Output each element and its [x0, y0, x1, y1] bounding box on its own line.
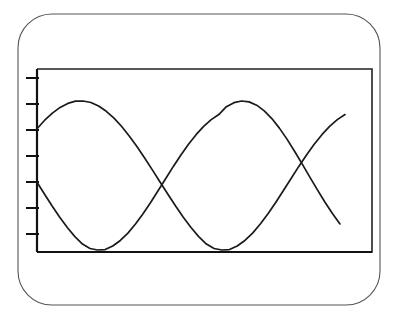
rounded-card-frame	[18, 14, 380, 305]
sine-wave-figure	[0, 0, 398, 324]
screenshot-root	[0, 0, 398, 324]
